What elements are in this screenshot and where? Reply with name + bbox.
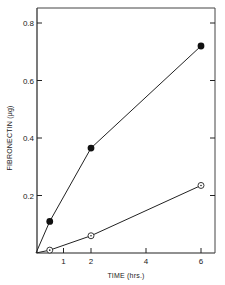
y-tick-label: 0.8	[23, 19, 35, 28]
y-axis-label: FIBRONECTIN (μg)	[6, 105, 14, 170]
y-tick-label: 0.6	[23, 77, 35, 86]
plot-frame	[37, 8, 215, 253]
x-tick-label: 6	[199, 257, 204, 266]
y-tick-label: 0.4	[23, 134, 35, 143]
chart: 1246 0.20.40.60.8 TIME (hrs.) FIBRONECTI…	[0, 0, 225, 285]
data-point-filled	[46, 218, 53, 225]
data-point-filled	[198, 43, 205, 50]
data-point-open-center	[49, 249, 51, 251]
y-axis-ticks: 0.20.40.60.8	[23, 19, 215, 201]
x-tick-label: 4	[144, 257, 149, 266]
y-tick-label: 0.2	[23, 192, 35, 201]
series-line-open-circles	[36, 185, 201, 253]
x-tick-label: 2	[89, 257, 94, 266]
data-point-filled	[88, 145, 95, 152]
series-line-filled-circles	[36, 46, 201, 253]
series-group	[36, 43, 204, 254]
x-tick-label: 1	[61, 257, 66, 266]
x-axis-ticks: 1246	[61, 248, 204, 266]
data-point-open-center	[200, 185, 202, 187]
x-axis-label: TIME (hrs.)	[107, 272, 144, 280]
data-point-open-center	[90, 235, 92, 237]
